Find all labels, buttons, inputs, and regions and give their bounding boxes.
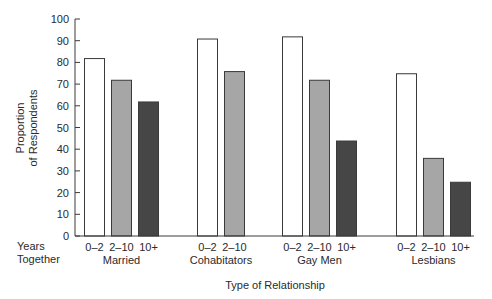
years-label: Years	[17, 240, 60, 253]
bar	[451, 182, 471, 236]
bar	[310, 80, 330, 236]
bar	[139, 102, 159, 236]
y-tick-label: 30	[57, 165, 69, 177]
together-label: Together	[17, 253, 60, 266]
years-together-label: Years Together	[17, 240, 60, 266]
y-axis-title-line1: Proportion	[14, 89, 27, 166]
y-tick-label: 90	[57, 35, 69, 47]
y-axis-title-line2: of Respondents	[27, 89, 40, 166]
bar	[112, 80, 132, 236]
bar	[225, 72, 245, 236]
years-tick-label: 2–10	[109, 241, 133, 253]
years-tick-label: 0–2	[283, 241, 301, 253]
years-tick-label: 0–2	[397, 241, 415, 253]
years-tick-label: 2–10	[222, 241, 246, 253]
y-tick-label: 20	[57, 187, 69, 199]
y-tick-label: 70	[57, 78, 69, 90]
y-tick-label: 10	[57, 208, 69, 220]
y-tick-label: 40	[57, 143, 69, 155]
years-tick-label: 2–10	[307, 241, 331, 253]
bar-group-gay-men: 0–22–1010+Gay Men	[283, 37, 357, 266]
bar	[397, 74, 417, 236]
group-label: Lesbians	[411, 254, 456, 266]
bar-group-married: 0–22–1010+Married	[85, 59, 159, 266]
group-label: Gay Men	[297, 254, 342, 266]
years-tick-label: 0–2	[85, 241, 103, 253]
bar	[424, 158, 444, 236]
years-tick-label: 2–10	[421, 241, 445, 253]
group-label: Married	[103, 254, 140, 266]
y-tick-label: 100	[51, 13, 69, 25]
bar-group-cohabitators: 0–22–10Cohabitators	[190, 39, 253, 266]
years-tick-label: 10+	[451, 241, 470, 253]
bar	[198, 39, 218, 236]
y-tick-label: 80	[57, 56, 69, 68]
y-tick-label: 0	[63, 230, 69, 242]
bar	[337, 141, 357, 236]
y-tick-label: 50	[57, 122, 69, 134]
x-axis-title: Type of Relationship	[225, 279, 325, 292]
bar	[85, 59, 105, 236]
y-tick-label: 60	[57, 100, 69, 112]
y-axis: 0102030405060708090100	[51, 13, 80, 242]
years-tick-label: 10+	[139, 241, 158, 253]
years-tick-label: 10+	[337, 241, 356, 253]
group-label: Cohabitators	[190, 254, 253, 266]
bar-chart: 0102030405060708090100 0–22–1010+Married…	[0, 0, 492, 299]
years-tick-label: 0–2	[198, 241, 216, 253]
bar	[283, 37, 303, 236]
bar-group-lesbians: 0–22–1010+Lesbians	[397, 74, 471, 266]
y-axis-title: Proportion of Respondents	[14, 89, 40, 166]
bars: 0–22–1010+Married0–22–10Cohabitators0–22…	[85, 37, 471, 266]
